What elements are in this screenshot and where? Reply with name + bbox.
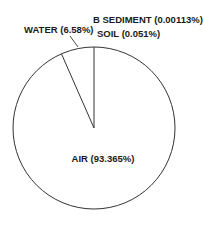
label-b-sediment: B SEDIMENT (0.00113%)	[93, 14, 203, 25]
pie-chart: B SEDIMENT (0.00113%) SOIL (0.051%) WATE…	[0, 0, 204, 230]
label-air: AIR (93.365%)	[72, 153, 135, 164]
pie-slices	[13, 47, 175, 209]
water-leader-line	[70, 36, 78, 47]
label-soil: SOIL (0.051%)	[97, 28, 160, 39]
label-water: WATER (6.58%)	[24, 24, 94, 35]
